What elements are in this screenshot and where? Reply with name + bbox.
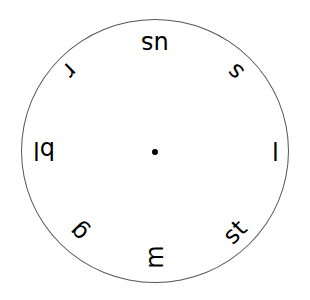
label-left: bl [33, 138, 55, 162]
spinner-diagram: us s l st m g bl r [0, 0, 310, 300]
label-bottom: m [142, 245, 166, 268]
center-dot [152, 149, 158, 155]
label-top: us [141, 32, 169, 56]
label-right: l [272, 138, 279, 162]
